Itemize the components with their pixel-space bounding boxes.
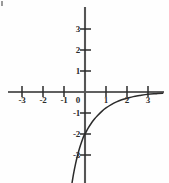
x-tick-label-neg1: -1 bbox=[60, 96, 67, 105]
graph-figure: -3 -2 -1 0 1 2 3 3 2 1 -1 -2 -3 bbox=[0, 0, 169, 183]
x-tick-label-3: 3 bbox=[146, 96, 150, 105]
coordinate-plane bbox=[0, 0, 169, 183]
x-tick-label-2: 2 bbox=[125, 96, 129, 105]
y-tick-label-neg1: -1 bbox=[73, 109, 80, 118]
x-tick-label-neg3: -3 bbox=[18, 96, 25, 105]
x-tick-label-1: 1 bbox=[104, 96, 108, 105]
origin-label: 0 bbox=[76, 96, 80, 105]
y-tick-label-neg2: -2 bbox=[73, 130, 80, 139]
y-tick-label-1: 1 bbox=[76, 67, 80, 76]
y-tick-label-3: 3 bbox=[76, 25, 80, 34]
y-tick-label-2: 2 bbox=[76, 46, 80, 55]
y-tick-label-neg3: -3 bbox=[73, 151, 80, 160]
x-tick-label-neg2: -2 bbox=[39, 96, 46, 105]
